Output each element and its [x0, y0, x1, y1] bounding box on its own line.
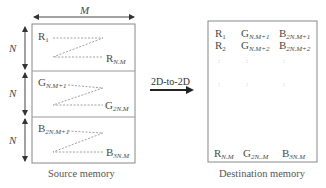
dest-r2: R2	[215, 40, 226, 51]
source-b-end-label: B3N.M	[106, 147, 129, 158]
transfer-label: 2D-to-2D	[151, 76, 190, 87]
height-label-n-2: N	[9, 88, 16, 99]
dest-r-nm: RN.M	[214, 148, 234, 159]
source-memory-caption: Source memory	[48, 168, 115, 179]
source-r-start-label: R1	[38, 31, 49, 42]
ellipsis-r-1: :	[218, 57, 220, 65]
destination-memory-caption: Destination memory	[219, 168, 305, 179]
ellipsis-r-2: :	[218, 80, 220, 88]
source-r-end-label: RN.M	[106, 53, 126, 64]
source-memory-box	[32, 24, 135, 163]
ellipsis-b-2: :	[283, 80, 285, 88]
dest-g-2nm: G2N..M	[243, 148, 268, 159]
width-label-m: M	[80, 5, 89, 16]
ellipsis-g-1: :	[246, 57, 248, 65]
dest-b-2nm1: B2N.M+1	[279, 28, 310, 39]
height-label-n-3: N	[9, 135, 16, 146]
scan-path-r	[53, 38, 103, 57]
dest-b-3nm: B3N.M	[282, 148, 305, 159]
height-label-n-1: N	[9, 43, 16, 54]
ellipsis-g-2: :	[246, 80, 248, 88]
dest-g-nm2: GN.M+2	[241, 40, 269, 51]
diagram-graphics	[0, 0, 326, 188]
source-g-end-label: G2N.M	[105, 100, 129, 111]
dest-b-2nm2: B2N.M+2	[279, 40, 310, 51]
source-g-start-label: GN.M+1	[38, 77, 66, 88]
source-b-start-label: B2N.M+1	[38, 123, 69, 134]
ellipsis-b-1: :	[283, 57, 285, 65]
dest-g-nm1: GN.M+1	[241, 28, 269, 39]
dest-r1: R1	[215, 28, 226, 39]
